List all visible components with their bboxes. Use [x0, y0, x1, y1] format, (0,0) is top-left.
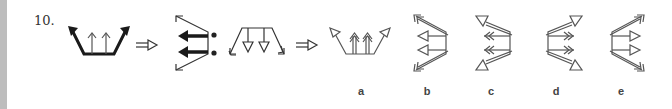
option-c-figure[interactable]	[474, 12, 518, 74]
figure-1	[66, 24, 132, 60]
option-a-figure[interactable]	[328, 26, 392, 58]
option-e-figure[interactable]	[604, 12, 648, 74]
option-b-label[interactable]: b	[417, 85, 437, 97]
implies-arrow-icon	[135, 38, 159, 52]
page-edge-strip	[0, 0, 7, 109]
figure-3	[226, 24, 288, 58]
option-d-figure[interactable]	[540, 12, 584, 74]
option-d-label[interactable]: d	[546, 85, 566, 97]
implies-arrow-icon	[295, 38, 319, 52]
option-a-label[interactable]: a	[351, 85, 371, 97]
option-b-figure[interactable]	[410, 12, 454, 74]
option-e-label[interactable]: e	[611, 85, 631, 97]
figure-2	[172, 12, 214, 74]
option-c-label[interactable]: c	[481, 85, 501, 97]
question-number: 10.	[34, 13, 55, 28]
ratio-colon	[209, 30, 219, 60]
